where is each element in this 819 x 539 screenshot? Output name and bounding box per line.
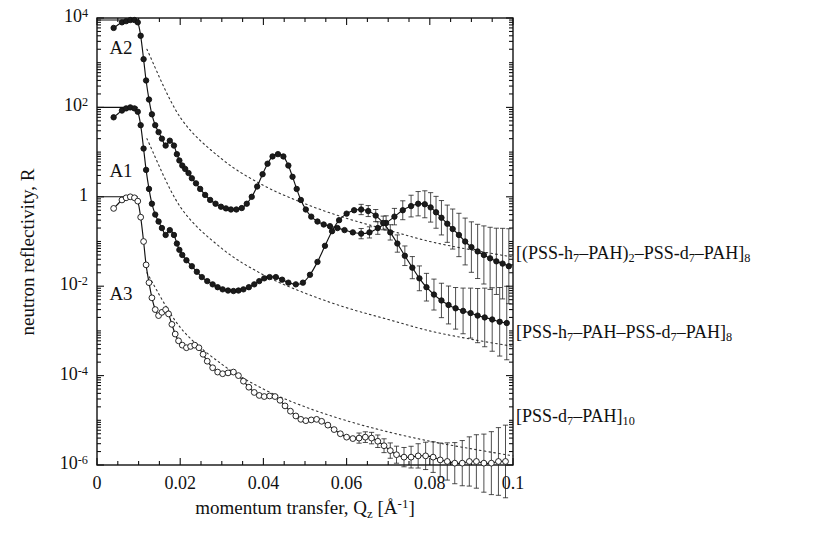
y-tick-label: 10-6 [20, 453, 88, 474]
data-point [135, 109, 140, 114]
data-point [152, 307, 158, 313]
data-point [362, 434, 368, 440]
data-point [424, 285, 429, 290]
data-point [392, 214, 397, 219]
data-point [288, 408, 294, 414]
data-point [439, 298, 444, 303]
y-tick-label: 10-4 [20, 364, 88, 385]
data-point [400, 208, 405, 213]
x-tick-label: 0 [57, 473, 137, 494]
data-point [373, 213, 378, 218]
data-point [423, 453, 429, 459]
data-point [267, 274, 272, 279]
legend-entry-a1: [PSS-h7–PAH–PSS-d7–PAH]8 [516, 322, 732, 343]
data-point [153, 212, 158, 217]
series-a3 [97, 194, 513, 498]
y-tick-label: 10-2 [20, 274, 88, 295]
data-point [469, 244, 474, 249]
legend-subscript: 8 [744, 251, 750, 265]
data-point [309, 214, 314, 219]
resolution-dotted-curve [147, 139, 513, 347]
data-point [344, 434, 350, 440]
data-point [325, 422, 331, 428]
data-point [331, 427, 337, 433]
data-point [277, 397, 283, 403]
data-point [369, 435, 375, 441]
data-point [286, 163, 291, 168]
plot-canvas [0, 0, 819, 539]
curve-tag-a3: A3 [109, 283, 132, 305]
data-point [506, 264, 511, 269]
data-point [260, 172, 265, 177]
data-point [146, 97, 151, 102]
data-point [141, 146, 146, 151]
data-point [319, 418, 325, 424]
data-point [272, 394, 278, 400]
data-point [186, 170, 191, 175]
data-point [141, 56, 146, 61]
data-point [482, 315, 487, 320]
data-point [246, 384, 252, 390]
data-point [213, 201, 218, 206]
data-point [475, 249, 480, 254]
legend-text-part: –PSS-d [635, 243, 689, 263]
data-point [265, 161, 270, 166]
data-point [159, 225, 164, 230]
data-point [220, 287, 225, 292]
x-axis-label: momentum transfer, Qz [Å-1] [97, 497, 513, 519]
data-point [172, 331, 178, 337]
data-point [350, 230, 355, 235]
data-point [246, 285, 251, 290]
data-point [196, 345, 202, 351]
data-point [207, 197, 212, 202]
y-tick-exponent: 4 [82, 6, 88, 20]
y-tick-mantissa: 10 [60, 364, 78, 384]
data-point [169, 321, 175, 327]
data-point [249, 194, 254, 199]
x-axis-unit-exponent: -1 [398, 496, 409, 511]
data-point [225, 370, 231, 376]
resolution-dotted-curve [147, 273, 513, 456]
data-point [415, 453, 421, 459]
data-point [138, 33, 143, 38]
data-point [298, 197, 303, 202]
y-tick-mantissa: 10 [64, 6, 82, 26]
data-point [273, 274, 278, 279]
data-point [293, 282, 298, 287]
data-point [300, 280, 305, 285]
data-point [452, 460, 458, 466]
y-axis-label: neutron reflectivity, R [17, 132, 39, 372]
data-point [481, 252, 486, 257]
legend-text-part: –PAH] [573, 406, 622, 426]
y-tick-exponent: -2 [78, 274, 88, 288]
data-point [111, 115, 116, 120]
data-point [387, 448, 393, 454]
data-point [322, 243, 327, 248]
data-point [111, 25, 116, 30]
data-point [210, 282, 215, 287]
data-point [257, 278, 262, 283]
data-point [197, 186, 202, 191]
data-point [462, 239, 467, 244]
data-point [337, 431, 343, 437]
x-tick-label: 0.1 [473, 473, 553, 494]
data-point [205, 278, 210, 283]
data-point [146, 186, 151, 191]
data-point [159, 136, 164, 141]
legend-entry-a2: [(PSS-h7–PAH)2–PSS-d7–PAH]8 [516, 243, 750, 264]
y-tick-mantissa: 10 [64, 95, 82, 115]
data-point [171, 143, 176, 148]
y-tick-mantissa: 10 [60, 453, 78, 473]
data-point [450, 226, 455, 231]
data-point [189, 176, 194, 181]
data-point [466, 459, 472, 465]
data-point [437, 457, 443, 463]
data-point [307, 272, 312, 277]
data-point [210, 365, 216, 371]
x-tick-label: 0.06 [307, 473, 387, 494]
x-axis-label-subscript: z [367, 506, 373, 521]
data-point [394, 452, 400, 458]
plot-frame [97, 18, 513, 465]
y-tick-label: 104 [20, 6, 88, 27]
data-point [504, 320, 509, 325]
